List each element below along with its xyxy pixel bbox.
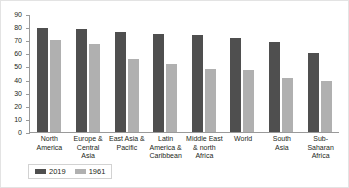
legend-swatch-icon: [75, 169, 86, 174]
bar-chart-card: 9080706050403020100 NorthAmericaEurope &…: [0, 0, 349, 188]
x-axis-label-line: South: [264, 135, 301, 144]
x-axis-label-line: Africa: [186, 152, 223, 161]
bar-group: [107, 15, 146, 132]
bar-1961-2[interactable]: [128, 59, 139, 132]
bar-1961-0[interactable]: [50, 40, 61, 132]
bar-2019-7[interactable]: [308, 53, 319, 132]
y-axis-tick-label: 90: [14, 10, 22, 19]
x-axis-labels: NorthAmericaEurope &Central AsiaEast Asi…: [30, 135, 340, 161]
bar-1961-7[interactable]: [321, 81, 332, 132]
bar-1961-1[interactable]: [89, 44, 100, 132]
x-axis-label-line: Latin: [147, 135, 184, 144]
bar-2019-3[interactable]: [153, 34, 164, 132]
bar-1961-3[interactable]: [166, 64, 177, 132]
x-axis-label: SouthAsia: [263, 135, 302, 161]
x-axis-label: LatinAmerica &Caribbean: [146, 135, 185, 161]
x-axis-label-line: North: [31, 135, 68, 144]
x-axis-label-line: Central Asia: [70, 144, 107, 161]
bar-group: [30, 15, 69, 132]
x-axis-label: World: [224, 135, 263, 161]
y-axis-tick-label: 40: [14, 76, 22, 85]
bar-1961-4[interactable]: [205, 69, 216, 132]
bar-group: [69, 15, 108, 132]
x-axis-label-line: America: [31, 144, 68, 153]
bar-group: [223, 15, 262, 132]
x-axis-line: [29, 132, 339, 133]
x-axis-label-line: America &: [147, 144, 184, 153]
x-axis-label-line: Sub-: [302, 135, 339, 144]
y-axis-tick-label: 50: [14, 62, 22, 71]
bar-1961-5[interactable]: [243, 70, 254, 132]
bar-2019-5[interactable]: [230, 38, 241, 132]
x-axis-label-line: Middle East: [186, 135, 223, 144]
x-axis-label: Sub-SaharanAfrica: [301, 135, 340, 161]
x-axis-label-line: Caribbean: [147, 152, 184, 161]
y-axis-tick-label: 10: [14, 115, 22, 124]
x-axis-label: Europe &Central Asia: [69, 135, 108, 161]
y-axis-tick-label: 70: [14, 36, 22, 45]
bar-group: [146, 15, 185, 132]
bar-1961-6[interactable]: [282, 78, 293, 132]
bar-group: [262, 15, 301, 132]
x-axis-label-line: Saharan: [302, 144, 339, 153]
legend-label: 2019: [49, 167, 66, 176]
x-axis-label-line: & north: [186, 144, 223, 153]
legend-item-1961[interactable]: 1961: [75, 167, 106, 176]
bar-2019-6[interactable]: [269, 42, 280, 132]
bar-groups: [30, 15, 339, 132]
legend-swatch-icon: [35, 169, 46, 174]
legend-label: 1961: [89, 167, 106, 176]
x-axis-label: NorthAmerica: [30, 135, 69, 161]
bar-group: [185, 15, 224, 132]
x-axis-label-line: World: [225, 135, 262, 144]
x-axis-label: East Asia &Pacific: [108, 135, 147, 161]
y-axis-tick-label: 30: [14, 89, 22, 98]
x-axis-label-line: East Asia &: [109, 135, 146, 144]
bar-2019-0[interactable]: [37, 28, 48, 132]
chart-legend: 20191961: [28, 164, 112, 179]
y-axis-tick-label: 80: [14, 23, 22, 32]
y-axis-tick-label: 0: [18, 128, 22, 137]
x-axis-label: Middle East& northAfrica: [185, 135, 224, 161]
y-axis-tick-label: 20: [14, 102, 22, 111]
x-axis-label-line: Africa: [302, 152, 339, 161]
bar-2019-4[interactable]: [192, 35, 203, 132]
legend-item-2019[interactable]: 2019: [35, 167, 66, 176]
x-axis-label-line: Pacific: [109, 144, 146, 153]
bar-group: [300, 15, 339, 132]
x-axis-label-line: Europe &: [70, 135, 107, 144]
plot-area: 9080706050403020100: [29, 15, 339, 133]
bar-2019-2[interactable]: [115, 32, 126, 132]
y-axis-tick-label: 60: [14, 49, 22, 58]
bar-2019-1[interactable]: [76, 29, 87, 132]
y-axis-tick: 0: [26, 133, 30, 134]
x-axis-label-line: Asia: [264, 144, 301, 153]
